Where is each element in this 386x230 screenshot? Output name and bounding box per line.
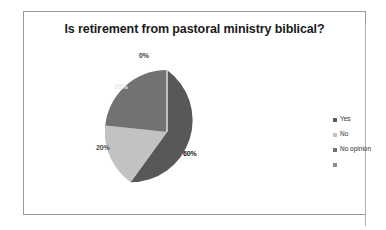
slice-label-no-opinion: 20%: [114, 83, 127, 90]
legend-swatch-icon: [333, 118, 337, 122]
slice-label-no: 20%: [96, 144, 109, 151]
screenshot-root: Is retirement from pastoral ministry bib…: [0, 0, 386, 230]
chart-title: Is retirement from pastoral ministry bib…: [24, 22, 365, 36]
slice-label-yes: 60%: [183, 150, 196, 157]
legend-swatch-icon: [333, 133, 337, 137]
legend-item-yes[interactable]: Yes: [333, 112, 386, 127]
legend-label: No: [340, 131, 348, 138]
legend-label: Yes: [340, 116, 351, 123]
legend-swatch-icon: [333, 148, 337, 152]
legend-item-blank[interactable]: [333, 157, 386, 172]
slice-label-zero: 0%: [139, 52, 149, 59]
legend-item-no-opinion[interactable]: No opinion: [333, 142, 386, 157]
chart-legend: Yes No No opinion: [333, 112, 386, 172]
legend-item-no[interactable]: No: [333, 127, 386, 142]
legend-swatch-icon: [333, 163, 337, 167]
legend-label: No opinion: [340, 146, 371, 153]
pie-slice-no-opinion[interactable]: [105, 70, 167, 132]
pie-plot-area: 0% 20% 20% 60%: [82, 47, 232, 202]
chart-frame: Is retirement from pastoral ministry bib…: [23, 11, 366, 215]
